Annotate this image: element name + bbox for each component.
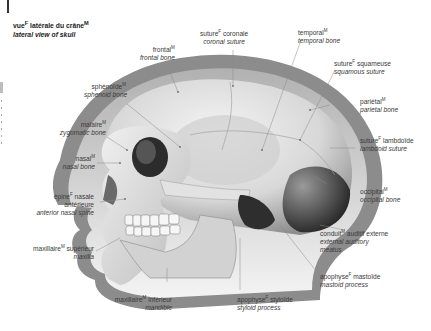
label-parietal-bone: pariétalM parietal bone — [360, 98, 398, 114]
label-nasal-bone: nasalM nasal bone — [55, 155, 95, 171]
label-styloid-process: apophyseF styloïde styloid process — [237, 296, 293, 312]
label-mandible: maxillaireM inférieur mandible — [108, 296, 172, 312]
title-en: lateral view of skull — [13, 31, 89, 39]
label-maxilla: maxillaireM supérieur maxilla — [20, 245, 94, 261]
skull-diagram: vueF latérale du crâneM lateral view of … — [0, 0, 431, 331]
label-external-auditory-meatus: conduitM auditif externe external audito… — [320, 230, 388, 255]
label-mastoid-process: apophyseF mastoïde mastoid process — [320, 273, 380, 289]
label-occipital-bone: occipitalM occipital bone — [360, 188, 400, 204]
teeth — [125, 214, 180, 236]
title-fr: vueF latérale du crâneM — [13, 22, 89, 29]
label-sphenoid-bone: sphénoïdeM sphenoid bone — [84, 83, 126, 99]
label-zygomatic-bone: malaireM zygomatic bone — [50, 121, 106, 137]
label-squamous-suture: sutureF squameuse squamous suture — [334, 60, 391, 76]
label-frontal-bone: frontalM frontal bone — [140, 46, 175, 62]
label-coronal-suture: sutureF coronale coronal suture — [200, 30, 248, 46]
diagram-title: vueF latérale du crâneM lateral view of … — [13, 19, 89, 39]
label-anterior-nasal-spine: épineF nasale antérieure anterior nasal … — [30, 193, 94, 218]
label-temporal-bone: temporalM temporal bone — [298, 29, 340, 45]
label-lambdoid-suture: sutureF lambdoïde lambdoid suture — [360, 137, 414, 153]
